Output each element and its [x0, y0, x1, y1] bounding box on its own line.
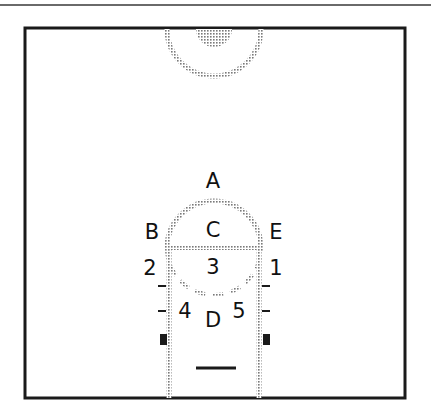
label-b: B [145, 222, 159, 243]
block-left [160, 334, 167, 345]
label-e: E [269, 222, 282, 243]
label-5: 5 [232, 301, 245, 322]
label-3: 3 [206, 257, 219, 278]
label-a: A [206, 171, 220, 192]
court-diagram [0, 0, 431, 417]
label-2: 2 [143, 258, 156, 279]
label-c: C [206, 220, 221, 241]
label-1: 1 [269, 258, 282, 279]
center-circle-fill [196, 29, 232, 47]
label-d: D [205, 310, 221, 331]
court-boundary [25, 28, 405, 398]
block-right [263, 334, 270, 345]
label-4: 4 [178, 301, 191, 322]
